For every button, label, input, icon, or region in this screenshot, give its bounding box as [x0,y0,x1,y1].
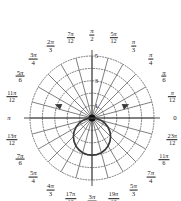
angle-label: 17π12 [65,191,76,201]
angle-label: 13π12 [6,133,17,147]
radial-tick-label: 5 [95,52,98,59]
radial-tick-label: 1 [95,101,98,108]
angle-label: 11π12 [6,90,17,104]
angle-label: 3π4 [29,52,38,67]
angle-label: 5π6 [16,69,25,84]
angle-label: 5π4 [29,169,38,184]
angle-label: 11π6 [158,153,169,167]
angle-label: 23π12 [167,133,178,147]
angle-label: π2 [89,28,94,43]
angle-label: 0 [173,115,176,122]
angle-label: 7π6 [16,152,25,167]
angle-label: 19π12 [108,191,119,201]
angle-label: π [7,115,10,122]
angle-label: π4 [148,52,153,67]
radial-tick-label: 3 [95,76,98,83]
angle-label: 3π2 [88,194,97,201]
angle-label: π3 [131,39,136,54]
angle-label: 7π12 [66,31,74,45]
polar-plot-figure: 0π12π6π4π35π12π27π122π33π45π611π12π13π12… [0,0,181,201]
angle-label: 2π3 [46,39,55,54]
angle-label: 5π12 [109,31,117,45]
angle-label: 5π3 [129,182,138,197]
angle-label: π6 [161,69,166,84]
angle-label: 4π3 [46,182,55,197]
angle-label: π12 [168,90,176,104]
angle-label: 7π4 [146,169,155,184]
